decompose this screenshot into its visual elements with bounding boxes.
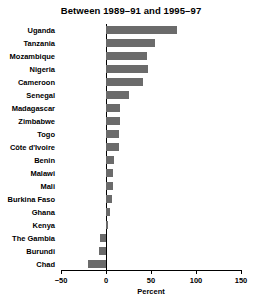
category-label: Côte d'Ivoire xyxy=(0,141,58,154)
bar-row xyxy=(61,154,241,167)
bar-row xyxy=(61,63,241,76)
x-axis-title: Percent xyxy=(61,287,241,296)
category-label: Mozambique xyxy=(0,50,58,63)
x-tick-mark xyxy=(241,270,242,274)
category-label: Chad xyxy=(0,258,58,271)
category-label: Ghana xyxy=(0,206,58,219)
bar xyxy=(106,65,148,73)
bar xyxy=(106,195,112,203)
x-tick-label: 50 xyxy=(136,276,166,285)
x-tick-mark xyxy=(196,270,197,274)
category-label: Uganda xyxy=(0,24,58,37)
bar xyxy=(106,117,120,125)
x-tick-mark xyxy=(151,270,152,274)
bar xyxy=(106,182,113,190)
bar-row xyxy=(61,102,241,115)
bar-row xyxy=(61,37,241,50)
bar xyxy=(106,91,129,99)
bar-row xyxy=(61,128,241,141)
bar xyxy=(106,78,143,86)
x-tick-label: −50 xyxy=(46,276,76,285)
x-tick-mark xyxy=(106,270,107,274)
category-label: Tanzania xyxy=(0,37,58,50)
category-axis-labels: UgandaTanzaniaMozambiqueNigeriaCameroonS… xyxy=(0,24,58,270)
bar-row xyxy=(61,219,241,232)
x-tick-label: 150 xyxy=(226,276,256,285)
bar-row xyxy=(61,50,241,63)
bar xyxy=(106,104,120,112)
category-label: Burkina Faso xyxy=(0,193,58,206)
category-label: Togo xyxy=(0,128,58,141)
x-tick-label: 0 xyxy=(91,276,121,285)
bar xyxy=(106,156,114,164)
category-label: Malawi xyxy=(0,167,58,180)
bar xyxy=(106,208,110,216)
bar-row xyxy=(61,206,241,219)
chart-title: Between 1989–91 and 1995–97 xyxy=(0,5,262,16)
bar xyxy=(106,130,119,138)
bar xyxy=(88,260,106,268)
category-label: Zimbabwe xyxy=(0,115,58,128)
bar-row xyxy=(61,232,241,245)
category-label: Nigeria xyxy=(0,63,58,76)
bar xyxy=(106,39,155,47)
bar xyxy=(106,52,147,60)
bar-row xyxy=(61,245,241,258)
x-tick-mark xyxy=(61,270,62,274)
bar-row xyxy=(61,180,241,193)
plot-area xyxy=(61,24,241,270)
bar-row xyxy=(61,89,241,102)
bar-row xyxy=(61,115,241,128)
x-tick-label: 100 xyxy=(181,276,211,285)
category-label: Kenya xyxy=(0,219,58,232)
bar xyxy=(99,247,106,255)
bar-row xyxy=(61,24,241,37)
bar-row xyxy=(61,141,241,154)
category-label: Senegal xyxy=(0,89,58,102)
bar xyxy=(106,26,177,34)
bar xyxy=(106,143,119,151)
bar-chart: Between 1989–91 and 1995–97 UgandaTanzan… xyxy=(0,0,262,301)
category-label: Mali xyxy=(0,180,58,193)
category-label: Burundi xyxy=(0,245,58,258)
category-label: Madagascar xyxy=(0,102,58,115)
category-label: Cameroon xyxy=(0,76,58,89)
bar xyxy=(100,234,106,242)
category-label: Benin xyxy=(0,154,58,167)
bar-row xyxy=(61,193,241,206)
bar xyxy=(106,221,108,229)
category-label: The Gambia xyxy=(0,232,58,245)
bar-row xyxy=(61,76,241,89)
bar xyxy=(106,169,113,177)
bar-row xyxy=(61,167,241,180)
